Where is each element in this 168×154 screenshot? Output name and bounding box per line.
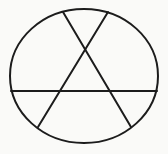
figure-canvas	[0, 0, 168, 154]
circle-with-chords-diagram	[0, 0, 168, 154]
circle-outline	[10, 9, 158, 143]
